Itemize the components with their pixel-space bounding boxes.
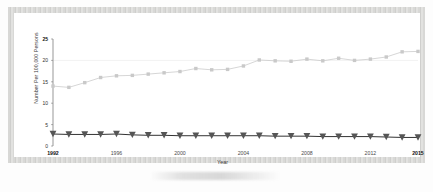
scan-artifact	[150, 172, 280, 180]
x-tick-label: 2008	[292, 150, 322, 156]
data-point-square	[289, 60, 292, 63]
y-tick-label: 25	[34, 36, 48, 42]
data-point-square	[369, 57, 372, 60]
data-point-square	[162, 71, 165, 74]
data-point-square	[353, 59, 356, 62]
data-series-layer	[50, 50, 422, 141]
page-root: Number Per 100,000 Persons Year 05101520…	[0, 0, 433, 192]
line-chart: Number Per 100,000 Persons Year 05101520…	[14, 13, 431, 169]
data-point-square	[83, 81, 86, 84]
figure-frame: Number Per 100,000 Persons Year 05101520…	[8, 7, 425, 163]
y-tick-label: 10	[34, 100, 48, 106]
data-point-square	[99, 76, 102, 79]
y-tick-label: 15	[34, 79, 48, 85]
x-tick-label: 1996	[101, 150, 131, 156]
x-tick-label: 2000	[165, 150, 195, 156]
data-point-square	[226, 68, 229, 71]
x-tick-label: 1992	[38, 150, 68, 156]
data-point-square	[400, 50, 403, 53]
y-tick-label: 0	[34, 143, 48, 149]
data-point-square	[51, 84, 54, 87]
data-point-square	[178, 70, 181, 73]
data-point-square	[416, 50, 419, 53]
data-point-square	[194, 67, 197, 70]
data-point-square	[258, 58, 261, 61]
data-point-square	[147, 72, 150, 75]
series-upper-series	[51, 50, 419, 89]
data-point-square	[321, 59, 324, 62]
data-point-square	[385, 55, 388, 58]
series-lower-series	[50, 131, 422, 141]
data-point-square	[115, 74, 118, 77]
data-point-square	[131, 74, 134, 77]
data-point-square	[242, 64, 245, 67]
data-point-square	[210, 68, 213, 71]
figure-card: Number Per 100,000 Persons Year 05101520…	[14, 13, 420, 157]
series-line	[53, 134, 418, 137]
x-tick-label: 2012	[355, 150, 385, 156]
data-point-square	[305, 57, 308, 60]
data-point-square	[337, 57, 340, 60]
data-point-square	[273, 59, 276, 62]
y-tick-label: 5	[34, 122, 48, 128]
x-tick-label: 2015	[403, 150, 433, 156]
y-tick-label: 20	[34, 57, 48, 63]
series-line	[53, 51, 418, 87]
data-point-square	[67, 86, 70, 89]
plot-canvas	[14, 13, 431, 169]
x-tick-label: 2004	[228, 150, 258, 156]
axis-lines	[51, 39, 53, 146]
